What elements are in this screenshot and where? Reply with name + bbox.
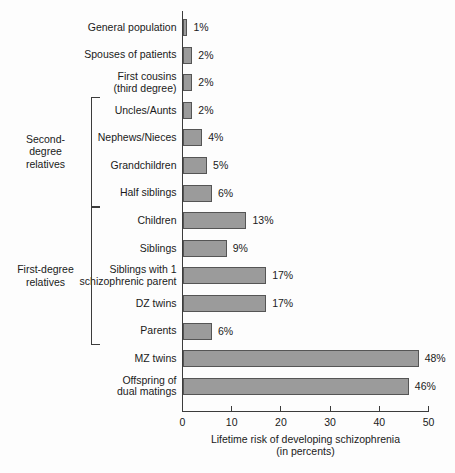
x-axis-tick-label: 50 [414, 416, 444, 428]
x-axis-tick-label: 0 [168, 416, 198, 428]
bar-value-label: 1% [193, 19, 208, 36]
chart-row: Children13% [0, 212, 455, 230]
category-label: Spouses of patients [7, 49, 177, 61]
chart-bar [183, 378, 409, 395]
group-bracket-label: First-degree relatives [8, 263, 83, 288]
x-axis-title: Lifetime risk of developing schizophreni… [123, 433, 455, 458]
chart-bar [183, 185, 213, 202]
category-label: MZ twins [7, 353, 177, 365]
bar-value-label: 17% [272, 295, 293, 312]
chart-row: Uncles/Aunts2% [0, 102, 455, 120]
bar-value-label: 2% [198, 74, 213, 91]
chart-bar [183, 129, 203, 146]
bar-value-label: 17% [272, 267, 293, 284]
chart-row: Parents6% [0, 323, 455, 341]
x-axis-tick [330, 406, 331, 411]
chart-bar [183, 267, 267, 284]
chart-row: First cousins (third degree)2% [0, 74, 455, 92]
bar-value-label: 2% [198, 102, 213, 119]
bar-value-label: 46% [415, 378, 436, 395]
group-bracket-label: Second- degree relatives [8, 133, 83, 171]
category-label: First cousins (third degree) [7, 71, 177, 94]
x-axis-tick [231, 406, 232, 411]
category-label: Offspring of dual matings [7, 375, 177, 398]
chart-row: Half siblings6% [0, 185, 455, 203]
chart-row: MZ twins48% [0, 350, 455, 368]
group-bracket [91, 207, 100, 344]
x-axis-tick-label: 30 [315, 416, 345, 428]
bar-chart: General population1%Spouses of patients2… [0, 0, 455, 473]
chart-row: DZ twins17% [0, 295, 455, 313]
bar-value-label: 6% [218, 185, 233, 202]
bar-value-label: 48% [425, 350, 446, 367]
bar-value-label: 4% [208, 129, 223, 146]
bar-value-label: 9% [233, 240, 248, 257]
chart-bar [183, 74, 193, 91]
y-axis-line [182, 11, 183, 411]
x-axis-line [182, 411, 429, 412]
bar-value-label: 13% [252, 212, 273, 229]
bar-value-label: 2% [198, 47, 213, 64]
chart-row: Spouses of patients2% [0, 47, 455, 65]
x-axis-tick-label: 40 [364, 416, 394, 428]
chart-bar [183, 47, 193, 64]
chart-bar [183, 157, 208, 174]
chart-bar [183, 323, 213, 340]
bar-value-label: 5% [213, 157, 228, 174]
category-label: General population [7, 22, 177, 34]
bar-value-label: 6% [218, 323, 233, 340]
chart-bar [183, 240, 227, 257]
x-axis-tick-label: 20 [266, 416, 296, 428]
x-axis-tick [280, 406, 281, 411]
chart-row: General population1% [0, 19, 455, 37]
x-axis-tick [379, 406, 380, 411]
chart-row: Offspring of dual matings46% [0, 378, 455, 396]
chart-bar [183, 295, 267, 312]
x-axis-tick-label: 10 [217, 416, 247, 428]
x-axis-tick [428, 406, 429, 411]
chart-bar [183, 212, 247, 229]
chart-bar [183, 102, 193, 119]
chart-bar [183, 19, 188, 36]
chart-row: Siblings9% [0, 240, 455, 258]
group-bracket [91, 97, 100, 207]
chart-bar [183, 350, 419, 367]
